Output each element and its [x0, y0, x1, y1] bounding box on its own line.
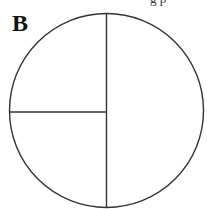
divided-circle-diagram	[0, 0, 207, 209]
